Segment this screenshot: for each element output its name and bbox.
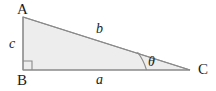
vertex-label-a: A bbox=[17, 2, 28, 17]
vertex-label-b: B bbox=[17, 73, 27, 88]
side-label-c: c bbox=[9, 37, 15, 51]
angle-label-theta: θ bbox=[148, 55, 155, 69]
triangle-drawing bbox=[0, 0, 216, 91]
side-label-b: b bbox=[96, 22, 103, 36]
right-triangle-diagram: A B C c b a θ bbox=[0, 0, 216, 91]
vertex-label-c: C bbox=[198, 62, 208, 77]
side-label-a: a bbox=[96, 73, 103, 87]
